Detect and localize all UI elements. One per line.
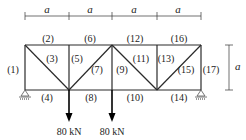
load-label-2: 80 kN bbox=[100, 126, 125, 137]
member-label-11: (11) bbox=[133, 53, 149, 65]
span-label: a bbox=[44, 3, 50, 15]
member-label-6: (6) bbox=[84, 33, 96, 45]
member-label-9: (9) bbox=[116, 64, 128, 76]
member-label-15: (15) bbox=[178, 64, 195, 76]
member-label-2: (2) bbox=[42, 33, 54, 45]
member-label-5: (5) bbox=[71, 53, 83, 65]
pin-support-icon bbox=[19, 90, 31, 99]
load-arrow-2: 80 kN bbox=[100, 90, 125, 137]
height-dimension-line: a bbox=[225, 45, 241, 90]
member-label-13: (13) bbox=[158, 53, 175, 65]
member-label-17: (17) bbox=[203, 64, 220, 76]
span-dimension-line: a a a a bbox=[25, 3, 201, 20]
truss-members bbox=[25, 45, 201, 90]
member-label-14: (14) bbox=[171, 92, 188, 104]
member-label-3: (3) bbox=[46, 53, 58, 65]
load-arrow-1: 80 kN bbox=[57, 90, 82, 137]
member-label-7: (7) bbox=[91, 64, 103, 76]
span-label: a bbox=[131, 3, 137, 15]
truss-diagram: a a a a a (1) (2) (3) (4) (5) (6) (7) bbox=[0, 0, 246, 140]
member-label-16: (16) bbox=[171, 33, 188, 45]
roller-support-icon bbox=[195, 90, 207, 99]
member-label-1: (1) bbox=[7, 64, 19, 76]
member-labels: (1) (2) (3) (4) (5) (6) (7) (8) (9) (10)… bbox=[7, 33, 219, 104]
member-label-8: (8) bbox=[85, 92, 97, 104]
height-label: a bbox=[235, 60, 241, 72]
span-label: a bbox=[87, 3, 93, 15]
span-label: a bbox=[175, 3, 181, 15]
member-label-4: (4) bbox=[41, 92, 53, 104]
load-label-1: 80 kN bbox=[57, 126, 82, 137]
member-label-12: (12) bbox=[127, 33, 144, 45]
member-label-10: (10) bbox=[127, 92, 144, 104]
